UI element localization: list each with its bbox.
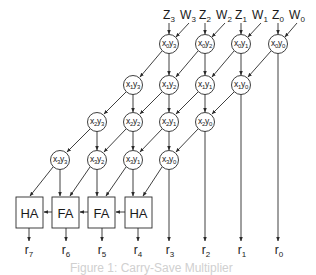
cell-x3y2: x3y2 (90, 155, 104, 165)
input-z1: Z1 (235, 9, 247, 24)
output-r5: r5 (98, 244, 106, 259)
half-adder-left: HA (20, 207, 38, 220)
full-adder-1: FA (58, 207, 74, 220)
figure-caption: Figure 1: Carry-Save Multiplier (70, 262, 233, 274)
cell-x1y1: x1y1 (198, 80, 212, 90)
input-w1: W1 (252, 9, 268, 24)
cell-x1y3: x1y3 (126, 80, 140, 90)
half-adder-right: HA (129, 207, 147, 220)
cell-x3y1: x3y1 (126, 155, 140, 165)
cell-x2y0: x2y0 (198, 117, 212, 127)
input-z0: Z0 (272, 9, 284, 24)
adder-output-arrows (29, 228, 138, 241)
cell-x3y3: x3y3 (53, 155, 67, 165)
input-w2: W2 (216, 9, 232, 24)
cell-x3y0: x3y0 (162, 155, 176, 165)
carry-arrows (30, 51, 271, 196)
cell-x1y0: x1y0 (234, 80, 248, 90)
cell-x0y3: x0y3 (162, 39, 176, 49)
input-w3: W3 (180, 9, 196, 24)
cell-x0y0: x0y0 (271, 39, 285, 49)
output-r7: r7 (25, 244, 33, 259)
cell-x2y3: x2y3 (90, 117, 104, 127)
output-r4: r4 (134, 244, 142, 259)
full-adder-2: FA (94, 207, 110, 220)
input-z3: Z3 (163, 9, 175, 24)
output-r6: r6 (62, 244, 70, 259)
cell-x1y2: x1y2 (162, 80, 176, 90)
cell-x2y1: x2y1 (162, 117, 176, 127)
input-w0: W0 (289, 9, 305, 24)
output-r3: r3 (166, 244, 174, 259)
output-r0: r0 (275, 244, 283, 259)
input-z2: Z2 (199, 9, 211, 24)
output-r1: r1 (238, 244, 246, 259)
cell-x0y1: x0y1 (234, 39, 248, 49)
cell-x0y2: x0y2 (198, 39, 212, 49)
output-r2: r2 (202, 244, 210, 259)
cell-x2y2: x2y2 (126, 117, 140, 127)
